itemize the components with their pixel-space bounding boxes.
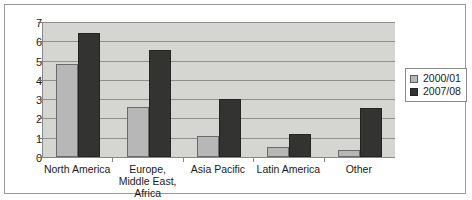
bar-0-1 [127, 107, 149, 157]
bar-0-3 [267, 147, 289, 157]
x-axis-tick-mark [183, 158, 184, 162]
bar-1-1 [149, 50, 171, 157]
x-axis-tick-mark [112, 158, 113, 162]
y-axis-tick-label: 1 [12, 133, 42, 144]
x-axis-tick-mark [324, 158, 325, 162]
legend-label: 2007/08 [423, 86, 461, 97]
bar-0-2 [197, 136, 219, 157]
y-axis-tick-label: 4 [12, 75, 42, 86]
bar-1-4 [360, 108, 382, 157]
x-axis-label: Europe, Middle East, Africa [112, 163, 182, 199]
legend-item: 2007/08 [410, 85, 461, 98]
x-axis-label: Other [324, 163, 394, 175]
y-axis-tick-label: 6 [12, 37, 42, 48]
x-axis-label: North America [42, 163, 112, 175]
y-axis-tick-label: 0 [12, 153, 42, 164]
chart-legend: 2000/012007/08 [405, 68, 467, 102]
plot-area [42, 22, 395, 158]
x-axis-label: Asia Pacific [183, 163, 253, 175]
y-axis-tick-label: 2 [12, 114, 42, 125]
y-axis: 01234567 [5, 22, 42, 158]
bar-1-3 [289, 134, 311, 157]
y-axis-tick-label: 7 [12, 18, 42, 29]
bar-0-0 [56, 64, 78, 157]
y-axis-tick-label: 5 [12, 56, 42, 67]
x-axis-tick-mark [253, 158, 254, 162]
legend-swatch-icon [410, 75, 418, 83]
bar-0-4 [338, 150, 360, 157]
y-axis-tick-label: 3 [12, 95, 42, 106]
bar-1-0 [78, 33, 100, 157]
legend-label: 2000/01 [423, 73, 461, 84]
x-axis-label: Latin America [253, 163, 323, 175]
chart-frame: 01234567 North AmericaEurope, Middle Eas… [4, 4, 466, 194]
legend-item: 2000/01 [410, 72, 461, 85]
legend-swatch-icon [410, 88, 418, 96]
bar-1-2 [219, 99, 241, 157]
gridline [43, 22, 395, 23]
